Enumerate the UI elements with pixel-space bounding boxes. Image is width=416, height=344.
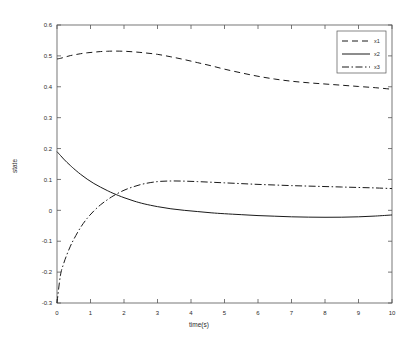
- y-tick-label: 0.5: [44, 53, 53, 59]
- y-tick-label: 0.6: [44, 22, 53, 28]
- y-tick-label: 0.3: [44, 115, 53, 121]
- x-axis-title: time(s): [189, 321, 209, 329]
- y-tick-label: -0.1: [42, 238, 53, 244]
- x-tick-label: 10: [389, 310, 396, 316]
- legend-label-x3: x3: [374, 64, 380, 70]
- y-tick-label: 0.1: [44, 177, 53, 183]
- legend-label-x1: x1: [374, 38, 380, 44]
- legend-label-x2: x2: [374, 51, 380, 57]
- state-vs-time-plot: 0.60.50.40.30.20.10-0.1-0.2-0.3 01234567…: [0, 0, 416, 344]
- y-tick-label: 0.4: [44, 84, 53, 90]
- y-tick-label: 0.2: [44, 146, 53, 152]
- y-tick-label: -0.2: [42, 269, 53, 275]
- y-axis-title: state: [11, 159, 18, 173]
- legend: x1x2x3: [337, 31, 386, 73]
- y-tick-label: -0.3: [42, 300, 53, 306]
